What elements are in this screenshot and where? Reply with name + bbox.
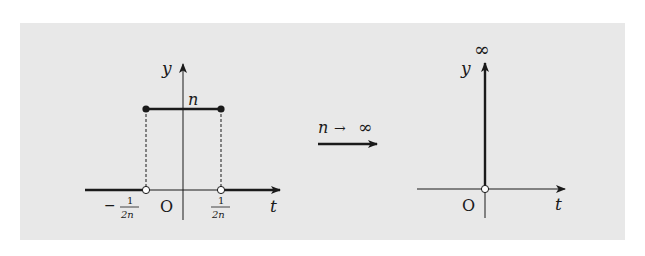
height-label: n	[188, 90, 198, 109]
right-y-axis-label: y	[460, 58, 471, 78]
pulse-to-impulse-diagram: y t O n − 1 2n 1 2n n → ∞ y ∞ t O	[0, 0, 645, 256]
right-tick-numerator: 1	[218, 195, 224, 206]
impulse-infinity-label: ∞	[474, 38, 490, 60]
left-tick-sign: −	[104, 197, 116, 213]
right-tick-denominator: 2n	[211, 209, 225, 220]
limit-label-variable: n	[318, 118, 328, 137]
filled-point-right	[217, 105, 224, 112]
right-origin-label: O	[462, 196, 475, 215]
left-y-axis-label: y	[161, 58, 172, 78]
hollow-point-origin	[481, 185, 488, 192]
hollow-point-left	[142, 186, 149, 193]
left-tick-denominator: 2n	[120, 209, 134, 220]
left-origin-label: O	[160, 197, 173, 216]
hollow-point-right	[217, 186, 224, 193]
filled-point-left	[142, 105, 149, 112]
limit-label-infinity: ∞	[358, 117, 372, 137]
left-x-axis-label: t	[270, 196, 277, 216]
limit-label-arrow: →	[334, 120, 346, 136]
left-tick-numerator: 1	[127, 195, 133, 206]
right-x-axis-label: t	[555, 194, 562, 214]
